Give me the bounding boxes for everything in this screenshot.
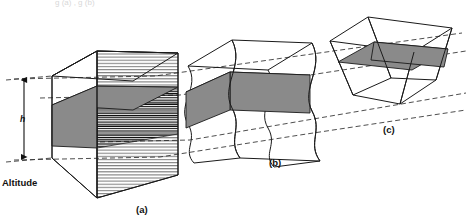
altitude-tick-top [6,76,52,80]
panel-a: (a) [52,51,178,215]
altitude-cells-diagram: g (a) , g (b) h Altitude [0,0,467,222]
panel-b-shaded-side [186,72,230,128]
altitude-tick-bottom [6,158,52,162]
figure-root: g (a) , g (b) h Altitude [0,0,467,222]
panel-b-bottom-left-edge [194,158,240,163]
height-label: h [20,114,25,124]
panel-c: (c) [330,17,452,135]
panel-c-label: (c) [383,124,395,135]
altitude-axis-label: Altitude [2,177,37,188]
altitude-axis: h Altitude [2,76,52,188]
panel-b: (b) [185,40,320,168]
panel-b-shaded-front [230,72,310,113]
panel-a-shaded-side [52,86,97,148]
panel-a-label: (a) [136,204,148,215]
panel-c-bottom-face [353,78,436,104]
cropped-caption: g (a) , g (b) [55,0,95,7]
panel-b-top-face [188,40,312,70]
panel-b-label: (b) [269,157,281,168]
